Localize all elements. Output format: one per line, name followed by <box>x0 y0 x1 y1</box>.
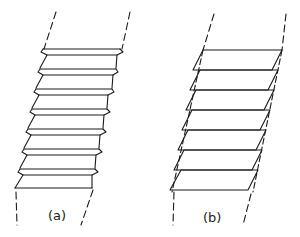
panel-a-guide-right-top <box>122 12 130 49</box>
panel-b-guide-right-top <box>282 14 286 50</box>
diagram-canvas: (a) (b) <box>0 0 300 237</box>
panel-b-guide-left-mid <box>172 50 203 192</box>
panel-a-label: (a) <box>48 208 66 223</box>
panel-a-layers <box>15 49 123 188</box>
panel-a-guide-right-bottom <box>81 190 93 225</box>
panel-b-guide-left-bottom <box>173 192 174 225</box>
panel-b-guide-left-top <box>203 14 214 50</box>
panel-b <box>170 14 286 225</box>
panel-b-guide-right-bottom <box>243 194 251 225</box>
panel-a <box>15 12 130 225</box>
panel-b-label: (b) <box>203 210 221 225</box>
panel-a-guide-left-top <box>44 12 56 49</box>
panel-b-plates <box>170 50 282 190</box>
panel-a-guide-left-bottom <box>16 192 17 225</box>
